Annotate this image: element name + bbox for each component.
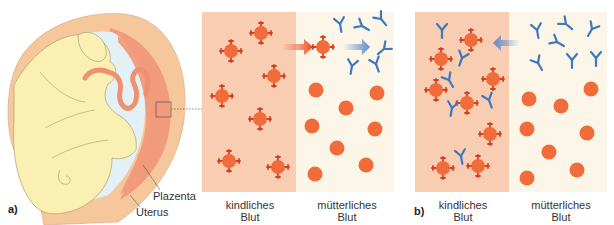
panel-a-child-label: kindliches Blut (215, 199, 285, 223)
placenta-annotation: Plazenta (153, 190, 196, 202)
panel-b-child-label: kindliches Blut (428, 199, 498, 223)
panel-a-child-label-line2: Blut (215, 211, 285, 223)
panel-a-mother-label: mütterliches Blut (302, 199, 392, 223)
panel-b-mother-label-line2: Blut (516, 211, 606, 223)
panel-b-child-label-line2: Blut (428, 211, 498, 223)
uterus-annotation: Uterus (136, 206, 168, 218)
panel-b-mother-label-line1: mütterliches (516, 199, 606, 211)
rhesus-diagram (0, 0, 614, 225)
panel-b (415, 12, 607, 192)
panel-a-mother-label-line1: mütterliches (302, 199, 392, 211)
panel-b-child-label-line1: kindliches (428, 199, 498, 211)
panel-a (202, 11, 394, 192)
part-b-label: b) (414, 205, 424, 217)
panel-a-mother-label-line2: Blut (302, 211, 392, 223)
panel-b-mother-label: mütterliches Blut (516, 199, 606, 223)
part-a-label: a) (8, 203, 18, 215)
panel-a-child-label-line1: kindliches (215, 199, 285, 211)
